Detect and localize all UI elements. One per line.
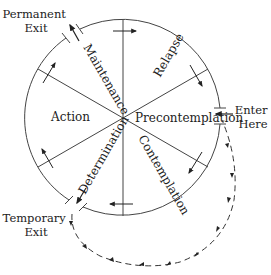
arrow-icon [42,149,53,168]
stage-relapse: Relapse [150,31,186,80]
permanent-exit-arrow-icon [70,25,79,41]
enter-here-label: Enter Here [235,103,271,131]
stage-precontemplation: Precontemplation [135,111,243,125]
temporary-exit-label: Temporary Exit [3,211,70,239]
arrow-icon [190,65,202,86]
stage-contemplation: Contemplation [135,133,192,218]
permanent-exit-label: Permanent Exit [2,7,69,35]
stage-action: Action [50,110,90,124]
stage-maintenance: Maintenance [80,42,132,118]
stages-of-change-diagram: Relapse Precontemplation Contemplation D… [0,0,271,275]
